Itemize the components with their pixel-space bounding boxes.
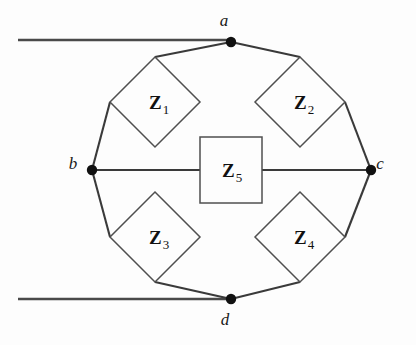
node-label-d: d — [221, 310, 230, 329]
impedance-subscript-z5: 5 — [236, 170, 243, 185]
node-label-c: c — [376, 154, 384, 173]
circuit-diagram-canvas: abcd Z1Z2Z3Z4Z5 — [0, 0, 416, 345]
impedance-subscript-z3: 3 — [163, 237, 170, 252]
impedance-letter-z2: Z — [294, 92, 307, 113]
node-label-a: a — [220, 11, 229, 30]
node-dot-d — [226, 294, 236, 304]
impedance-letter-z5: Z — [222, 160, 235, 181]
impedance-subscript-z1: 1 — [163, 102, 170, 117]
impedance-letter-z4: Z — [294, 227, 307, 248]
node-dot-c — [366, 165, 376, 175]
node-dot-a — [226, 37, 236, 47]
impedance-letter-z3: Z — [149, 227, 162, 248]
bridge-circuit-figure: abcd Z1Z2Z3Z4Z5 — [0, 0, 416, 345]
impedance-subscript-z2: 2 — [308, 102, 315, 117]
node-label-b: b — [69, 154, 78, 173]
impedance-subscript-z4: 4 — [308, 237, 315, 252]
node-dot-b — [87, 165, 97, 175]
impedance-letter-z1: Z — [149, 92, 162, 113]
